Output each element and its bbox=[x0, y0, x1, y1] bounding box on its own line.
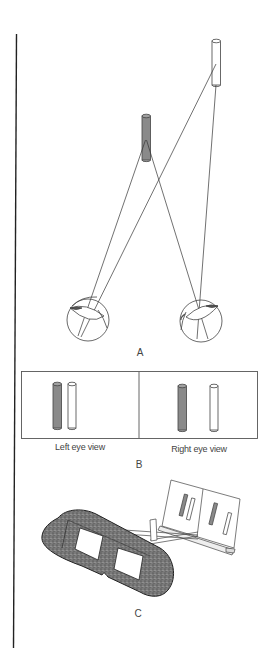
panel-b-label: B bbox=[136, 459, 142, 470]
panel-a-label: A bbox=[137, 347, 143, 358]
right-view-near-rod-icon bbox=[178, 384, 187, 431]
far-rod-icon bbox=[212, 39, 221, 86]
panel-a-diagram bbox=[67, 39, 222, 342]
left-view-near-rod-icon bbox=[53, 382, 62, 429]
left-eye-view-caption: Left eye view bbox=[55, 442, 105, 452]
stereo-vision-figure bbox=[0, 0, 266, 650]
panel-c-label: C bbox=[134, 608, 141, 619]
right-view-far-rod-icon bbox=[210, 384, 218, 431]
margin-rule bbox=[14, 34, 17, 648]
left-view-far-rod-icon bbox=[68, 382, 76, 429]
left-eye-icon bbox=[67, 297, 109, 341]
panel-c-stereoscope bbox=[42, 480, 240, 596]
near-rod-icon bbox=[142, 114, 151, 161]
right-eye-icon bbox=[180, 300, 222, 342]
panel-b-views-box bbox=[22, 372, 258, 439]
right-eye-view-caption: Right eye view bbox=[171, 444, 227, 454]
